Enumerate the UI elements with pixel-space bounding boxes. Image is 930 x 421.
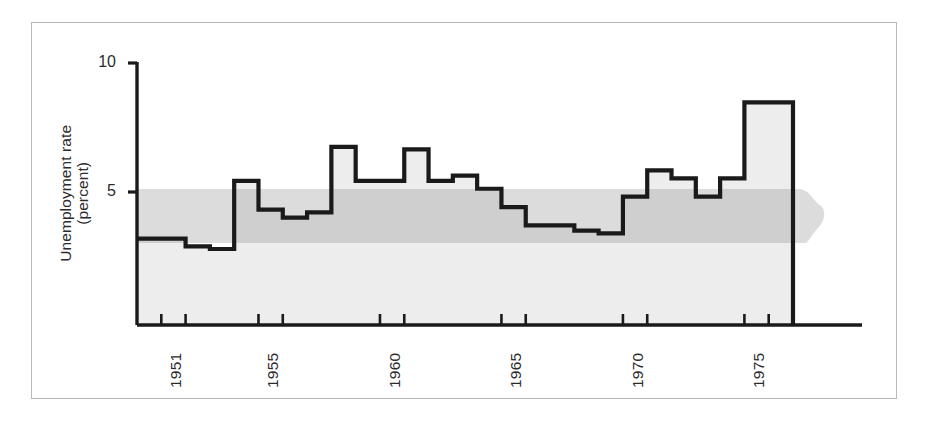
x-tick-label-1960: 1960 <box>386 353 404 388</box>
x-tick-label-1970: 1970 <box>629 353 647 388</box>
x-tick-label-1951: 1951 <box>167 353 185 388</box>
x-tick-label-1975: 1975 <box>750 353 768 388</box>
x-tick-label-1955: 1955 <box>264 353 282 388</box>
chart-plot-area <box>0 0 930 421</box>
figure-root: Unemployment rate (percent) 10 5 <box>0 0 930 421</box>
x-tick-label-1965: 1965 <box>507 353 525 388</box>
